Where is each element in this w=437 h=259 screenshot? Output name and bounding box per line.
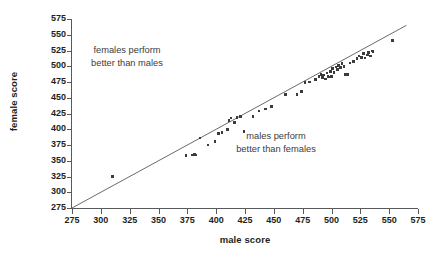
y-tick-label: 450 <box>26 93 66 102</box>
annotation-line-1: males perform <box>188 130 364 143</box>
y-tick-label: 375 <box>26 140 66 149</box>
data-point <box>324 78 327 81</box>
data-point <box>346 73 349 76</box>
data-point <box>321 76 324 79</box>
data-point <box>111 175 114 178</box>
annotation-males-perform-better: males perform better than females <box>188 130 364 156</box>
data-point <box>300 90 303 93</box>
x-tick-mark <box>389 209 390 214</box>
data-point <box>333 71 336 74</box>
data-point <box>366 54 369 57</box>
data-point <box>252 115 255 118</box>
data-point <box>239 115 242 118</box>
x-tick-mark <box>332 209 333 214</box>
data-point <box>339 66 342 69</box>
x-tick-mark <box>245 209 246 214</box>
y-tick-label: 425 <box>26 109 66 118</box>
x-tick-label: 575 <box>398 216 437 225</box>
x-tick-mark <box>101 209 102 214</box>
data-point <box>236 116 239 119</box>
data-point <box>264 108 267 111</box>
y-tick-label: 300 <box>26 187 66 196</box>
y-tick-label: 350 <box>26 156 66 165</box>
data-point <box>331 67 334 70</box>
data-point <box>308 81 311 84</box>
data-point <box>336 68 339 71</box>
data-point <box>258 110 261 113</box>
x-tick-mark <box>130 209 131 214</box>
data-point <box>314 78 317 81</box>
data-point <box>228 119 231 122</box>
annotation-line-2: better than males <box>47 57 207 70</box>
y-tick-label: 550 <box>26 30 66 39</box>
y-axis-title: female score <box>8 62 19 142</box>
data-point <box>284 93 287 96</box>
data-point <box>322 74 325 77</box>
data-point <box>360 56 363 59</box>
y-tick-label: 575 <box>26 14 66 23</box>
annotation-line-1: females perform <box>47 44 207 57</box>
data-point <box>356 57 359 60</box>
data-point <box>352 60 355 63</box>
data-point <box>296 93 299 96</box>
data-point <box>233 121 236 124</box>
y-tick-label: 275 <box>26 203 66 212</box>
x-tick-mark <box>216 209 217 214</box>
data-point <box>391 39 394 42</box>
data-point <box>230 117 233 120</box>
y-tick-label: 325 <box>26 172 66 181</box>
x-tick-mark <box>274 209 275 214</box>
data-point <box>369 55 372 58</box>
x-tick-mark <box>72 209 73 214</box>
data-point <box>372 50 375 53</box>
data-point <box>343 65 346 68</box>
annotation-females-perform-better: females perform better than males <box>47 44 207 70</box>
data-point <box>362 52 365 55</box>
annotation-line-2: better than females <box>188 143 364 156</box>
data-point <box>367 51 370 54</box>
x-tick-mark <box>418 209 419 214</box>
x-tick-mark <box>303 209 304 214</box>
scatter-chart-figure: female score male score 2753003253503754… <box>0 0 437 259</box>
data-point <box>364 57 367 60</box>
data-point <box>270 105 273 108</box>
y-tick-label: 475 <box>26 77 66 86</box>
data-point <box>349 62 352 65</box>
data-point <box>304 81 307 84</box>
x-tick-mark <box>360 209 361 214</box>
x-axis-title: male score <box>72 234 418 245</box>
data-point <box>329 70 332 73</box>
x-tick-mark <box>159 209 160 214</box>
data-point <box>330 75 333 78</box>
x-tick-mark <box>187 209 188 214</box>
y-tick-label: 400 <box>26 124 66 133</box>
